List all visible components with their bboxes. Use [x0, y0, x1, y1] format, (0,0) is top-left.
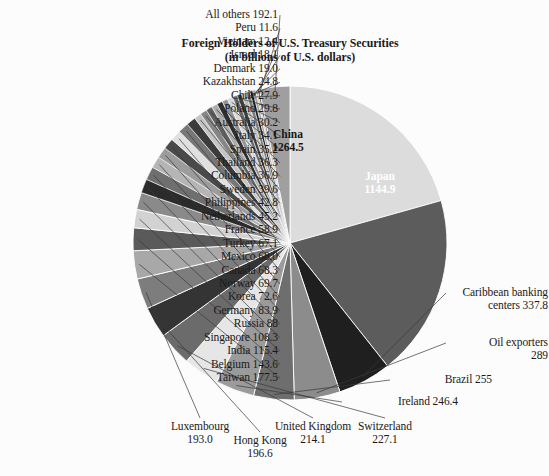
callout-label-right: Oil exporters289: [452, 336, 548, 361]
callout-label-bottom-line2: 227.1: [330, 433, 440, 446]
callout-label-bottom-line2: 196.6: [205, 447, 315, 460]
callout-label-left: Columbia 36.9: [0, 169, 278, 182]
callout-label-right-line1: Brazil 255: [396, 373, 492, 386]
callout-label-left: Singapore 108.3: [0, 331, 278, 344]
callout-label-left: Korea 72.6: [0, 290, 278, 303]
callout-label-right-line1: Caribbean banking: [452, 286, 548, 299]
callout-label-left: Canada 68.3: [0, 264, 278, 277]
callout-label-left: All others 192.1: [0, 8, 278, 21]
callout-label-right: Ireland 246.4: [348, 395, 458, 408]
callout-label-right: Caribbean bankingcenters 337.8: [452, 286, 548, 311]
callout-label-left: Germany 83.9: [0, 304, 278, 317]
slice-label-japan: Japan 1144.9: [340, 170, 420, 196]
callout-label-right-line2: 289: [452, 349, 548, 362]
callout-label-left: Australia 30.2: [0, 116, 278, 129]
callout-label-left: Italy 34.1: [0, 129, 278, 142]
callout-label-left: Spain 35.2: [0, 143, 278, 156]
callout-label-left: Sweden 39.6: [0, 183, 278, 196]
callout-label-left: Turkey 67.1: [0, 237, 278, 250]
callout-label-left: Chile 27.9: [0, 89, 278, 102]
callout-label-left: Belgium 143.6: [0, 358, 278, 371]
callout-label-left: Peru 11.6: [0, 21, 278, 34]
callout-label-right: Brazil 255: [396, 373, 492, 386]
callout-label-left: Taiwan 177.5: [0, 371, 278, 384]
callout-label-right-line2: centers 337.8: [452, 299, 548, 312]
callout-label-bottom-line1: Luxembourg: [145, 420, 255, 433]
callout-label-left: Poland 29.8: [0, 102, 278, 115]
pie-chart-figure: Foreign Holders of U.S. Treasury Securit…: [0, 0, 549, 476]
callout-label-right-line1: Ireland 246.4: [348, 395, 458, 408]
callout-label-right-line1: Oil exporters: [452, 336, 548, 349]
slice-label-japan-value: 1144.9: [340, 183, 420, 196]
callout-label-left: Mexico 68.0: [0, 250, 278, 263]
callout-label-left: Denmark 19.0: [0, 62, 278, 75]
callout-label-left: France 58.9: [0, 223, 278, 236]
slice-label-japan-name: Japan: [340, 170, 420, 183]
callout-label-left: Norway 69.7: [0, 277, 278, 290]
callout-label-left: Netherlands 45.2: [0, 210, 278, 223]
callout-label-left: Vietnam 12.4: [0, 35, 278, 48]
callout-label-left: India 115.4: [0, 344, 278, 357]
callout-label-bottom-line1: Switzerland: [330, 420, 440, 433]
callout-label-bottom: Switzerland227.1: [330, 420, 440, 445]
callout-label-left: Russia 88: [0, 317, 278, 330]
callout-label-left: Philippines 42.8: [0, 196, 278, 209]
callout-label-left: Israel 18.1: [0, 48, 278, 61]
callout-label-left: Kazakhstan 24.8: [0, 75, 278, 88]
callout-label-left: Thailand 36.3: [0, 156, 278, 169]
